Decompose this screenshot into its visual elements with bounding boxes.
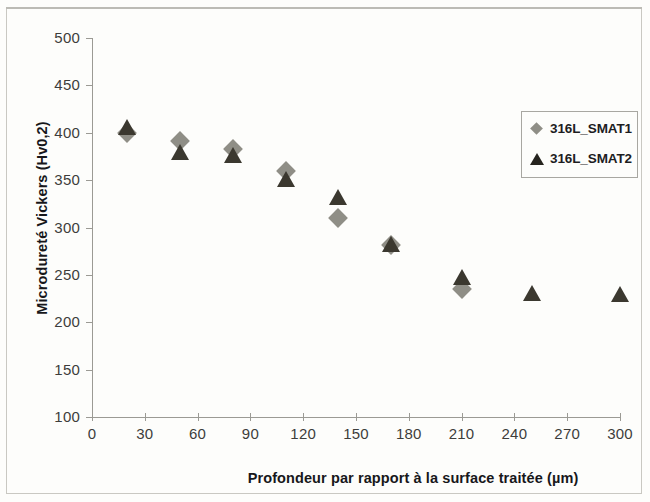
x-axis-tick xyxy=(514,413,515,421)
triangle-marker-icon xyxy=(611,286,629,302)
diamond-marker-icon xyxy=(328,208,348,228)
x-axis-tick-label: 210 xyxy=(440,425,484,442)
y-axis-tick-label: 100 xyxy=(34,408,80,426)
x-axis-tick-label: 30 xyxy=(123,425,167,442)
triangle-marker-icon xyxy=(382,236,400,252)
y-axis-tick xyxy=(86,38,93,39)
triangle-marker-icon xyxy=(118,119,136,135)
y-axis-tick xyxy=(86,228,93,229)
scatter-plot: 500450400350300250200150100 030609012015… xyxy=(0,0,650,502)
triangle-marker-icon xyxy=(277,171,295,187)
triangle-marker-icon xyxy=(224,147,242,163)
legend-item-label: 316L_SMAT2 xyxy=(550,151,632,166)
legend-item-316l-smat2: 316L_SMAT2 xyxy=(529,148,632,168)
y-axis-title: Microdureté Vickers (Hv0,2) xyxy=(34,88,50,348)
x-axis-tick-label: 240 xyxy=(492,425,536,442)
chart-legend: 316L_SMAT1 316L_SMAT2 xyxy=(521,111,638,178)
x-axis-tick xyxy=(567,413,568,421)
y-axis-tick xyxy=(86,85,93,86)
x-axis-tick xyxy=(250,413,251,421)
triangle-marker-icon xyxy=(171,144,189,160)
x-axis-tick-label: 300 xyxy=(598,425,642,442)
y-axis-tick xyxy=(86,370,93,371)
triangle-marker-icon xyxy=(329,189,347,205)
x-axis-tick xyxy=(356,413,357,421)
x-axis-tick-label: 150 xyxy=(334,425,378,442)
x-axis-tick xyxy=(145,413,146,421)
x-axis-tick-label: 90 xyxy=(228,425,272,442)
y-axis-tick-label: 150 xyxy=(34,361,80,379)
legend-item-316l-smat1: 316L_SMAT1 xyxy=(529,118,632,138)
y-axis-tick xyxy=(86,180,93,181)
y-axis-tick-label: 500 xyxy=(34,29,80,47)
x-axis-tick xyxy=(303,413,304,421)
triangle-marker-icon xyxy=(523,285,541,301)
x-axis-tick-label: 0 xyxy=(70,425,114,442)
x-axis-tick-label: 270 xyxy=(545,425,589,442)
y-axis-tick-label-text: 500 xyxy=(34,29,80,46)
y-axis-tick xyxy=(86,133,93,134)
x-axis-tick xyxy=(198,413,199,421)
x-axis-tick xyxy=(462,413,463,421)
x-axis-tick-label: 180 xyxy=(387,425,431,442)
y-axis-tick-label-text: 100 xyxy=(34,408,80,425)
diamond-marker-icon xyxy=(529,120,545,136)
y-axis-tick xyxy=(86,275,93,276)
x-axis-tick-label: 60 xyxy=(176,425,220,442)
x-axis-tick-label: 120 xyxy=(281,425,325,442)
x-axis-tick xyxy=(409,413,410,421)
triangle-marker-icon xyxy=(529,150,545,166)
x-axis-tick xyxy=(620,413,621,421)
chart-page: 500450400350300250200150100 030609012015… xyxy=(0,0,650,502)
legend-item-label: 316L_SMAT1 xyxy=(550,121,632,136)
x-axis-title: Profondeur par rapport à la surface trai… xyxy=(180,470,646,486)
triangle-marker-icon xyxy=(453,269,471,285)
x-axis-tick xyxy=(92,413,93,421)
y-axis-tick xyxy=(86,322,93,323)
y-axis-tick-label-text: 150 xyxy=(34,361,80,378)
